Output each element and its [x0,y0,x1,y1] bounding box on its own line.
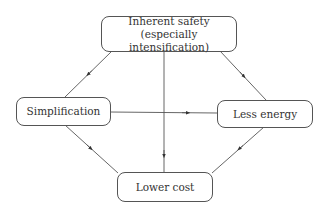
edge-simplification-to-lower-cost [65,125,118,173]
node-inherent-safety: Inherent safety (especially intensificat… [101,16,237,52]
node-simplification-label: Simplification [27,105,101,118]
edge-safety-to-simplification [65,51,112,97]
node-inherent-safety-title: Inherent safety [128,15,209,28]
edge-safety-to-less-energy [220,51,266,100]
node-inherent-safety-subtitle: (especially intensification) [102,28,236,54]
node-lower-cost-label: Lower cost [136,181,195,194]
node-less-energy-label: Less energy [233,108,297,121]
edge-less-energy-to-lower-cost [212,127,264,173]
node-lower-cost: Lower cost [117,172,213,202]
node-simplification: Simplification [16,97,111,126]
node-less-energy: Less energy [217,100,313,128]
edge-simplification-to-less-energy [110,112,217,113]
